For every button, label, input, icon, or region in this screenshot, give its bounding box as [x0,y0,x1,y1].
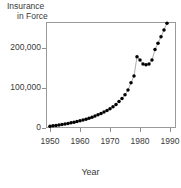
data-point-1951 [51,124,55,128]
data-point-1953 [57,123,61,127]
data-point-1982 [144,63,148,67]
data-point-1981 [141,62,145,66]
data-point-1972 [114,103,118,107]
data-point-1979 [135,55,139,59]
data-point-1959 [75,120,79,124]
data-point-1985 [153,48,157,52]
data-point-1950 [48,124,52,128]
data-point-1964 [90,115,94,119]
data-point-1984 [150,58,154,62]
data-point-1971 [111,105,115,109]
data-point-1955 [63,122,67,126]
data-point-1966 [96,113,100,117]
data-point-1957 [69,121,73,125]
data-point-1958 [72,120,76,124]
data-point-1983 [147,62,151,66]
data-point-1978 [132,74,136,78]
data-point-1988 [162,28,166,32]
data-point-1973 [117,100,121,104]
data-point-1954 [60,123,64,127]
data-point-1961 [81,118,85,122]
data-point-1963 [87,116,91,120]
data-point-1968 [102,110,106,114]
data-point-1989 [165,21,169,25]
data-point-1965 [93,114,97,118]
data-point-1975 [123,93,127,97]
data-point-1962 [84,117,88,121]
data-point-1987 [159,35,163,39]
data-point-1980 [138,58,142,62]
data-point-1952 [54,124,58,128]
data-point-1967 [99,112,103,116]
data-point-1977 [129,81,133,85]
data-point-1976 [126,88,130,92]
data-point-1974 [120,97,124,101]
data-point-1970 [108,107,112,111]
chart-screenshot: Insurance in Force 200,000 100,000 0 195… [0,0,181,188]
data-point-1986 [156,41,160,45]
data-point-1956 [66,122,70,126]
data-point-1960 [78,119,82,123]
x-axis-label: Year [0,167,181,177]
data-point-1969 [105,109,109,113]
chart-plot-area [0,0,181,188]
